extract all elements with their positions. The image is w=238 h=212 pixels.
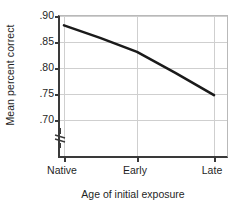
- y-tick-label-085: .85: [18, 35, 54, 47]
- x-tick-label-native: Native: [47, 164, 77, 176]
- y-axis-title-text: Mean percent correct: [4, 24, 16, 125]
- x-axis-tick-labels: Native Early Late: [58, 164, 228, 180]
- y-tick-label-075: .75: [18, 87, 54, 99]
- y-tick-label-080: .80: [18, 61, 54, 73]
- x-axis-title: Age of initial exposure: [38, 188, 228, 200]
- series-path-native-early-late: [64, 25, 214, 95]
- y-tick-label-090: .90: [18, 9, 54, 21]
- plot-area: [58, 15, 228, 158]
- y-axis-tick-labels: .90 .85 .80 .75 .70: [18, 0, 54, 212]
- x-tick-label-early: Early: [123, 164, 147, 176]
- data-series-line: [60, 16, 230, 159]
- y-axis-title: Mean percent correct: [0, 0, 20, 150]
- line-chart: Mean percent correct .90 .85 .80 .75 .70: [0, 0, 238, 212]
- x-tick-label-late: Late: [202, 164, 222, 176]
- y-tick-label-070: .70: [18, 113, 54, 125]
- axis-break-icon: [52, 128, 68, 148]
